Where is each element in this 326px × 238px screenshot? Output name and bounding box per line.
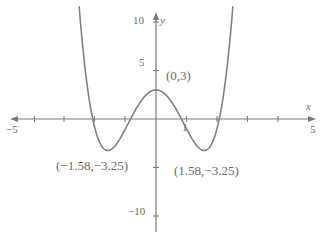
y-axis-label: y xyxy=(160,15,165,26)
y-tick-label-neg-ten: −10 xyxy=(128,206,145,217)
annotation-local-maximum: (0,3) xyxy=(166,69,191,82)
plot-svg xyxy=(0,0,326,238)
x-tick-label-one: 1 xyxy=(182,122,188,133)
x-axis-arrow-left xyxy=(10,116,18,122)
chart-canvas: −5 5 1 x 10 5 −10 y (0,3) (−1.58,−3.25) … xyxy=(0,0,326,238)
y-tick-label-ten: 10 xyxy=(133,15,144,26)
annotation-right-minimum: (1.58,−3.25) xyxy=(174,164,239,177)
x-axis-arrow-right xyxy=(308,116,316,122)
x-axis-label: x xyxy=(306,101,311,112)
y-axis-arrow-up xyxy=(153,12,159,20)
x-tick-label-pos5: 5 xyxy=(310,124,316,135)
y-tick-label-five: 5 xyxy=(139,57,145,68)
y-axis xyxy=(153,12,159,232)
annotation-left-minimum: (−1.58,−3.25) xyxy=(56,159,128,172)
x-tick-label-neg5: −5 xyxy=(6,124,18,135)
x-axis xyxy=(10,116,316,122)
